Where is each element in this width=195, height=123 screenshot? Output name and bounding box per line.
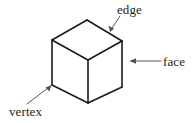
label-edge: edge [117, 3, 142, 16]
label-vertex: vertex [9, 105, 42, 118]
cube-parts-diagram: edge face vertex [0, 0, 195, 123]
label-face: face [163, 55, 185, 68]
vertex-arrowhead-icon [46, 85, 52, 92]
face-arrowhead-icon [130, 58, 137, 63]
